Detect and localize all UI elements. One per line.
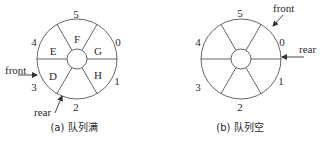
divider bbox=[57, 24, 72, 50]
rear-arrow-icon bbox=[55, 96, 62, 113]
front-arrow-icon bbox=[273, 15, 283, 26]
index-2: 2 bbox=[73, 101, 79, 113]
rear-pointer-label: rear bbox=[299, 43, 316, 55]
index-4: 4 bbox=[195, 36, 201, 48]
cell-4-value: E bbox=[50, 45, 57, 57]
divider bbox=[246, 24, 261, 50]
index-1: 1 bbox=[278, 75, 284, 87]
divider bbox=[246, 68, 261, 94]
index-2: 2 bbox=[237, 101, 243, 113]
panel-b-empty-queue: 5 4 0 3 1 2 front rear (b) 队列空 bbox=[195, 2, 316, 133]
divider bbox=[221, 24, 236, 50]
index-4: 4 bbox=[31, 36, 37, 48]
panel-a-full-queue: F E G D H 5 4 0 3 1 2 front rear (a) 队列满 bbox=[5, 8, 121, 133]
caption-a: (a) 队列满 bbox=[50, 121, 97, 133]
index-0: 0 bbox=[115, 36, 121, 48]
queue-diagram: F E G D H 5 4 0 3 1 2 front rear (a) 队列满… bbox=[0, 0, 320, 146]
divider bbox=[57, 68, 72, 94]
inner-ring bbox=[231, 49, 251, 69]
index-0: 0 bbox=[279, 36, 285, 48]
index-3: 3 bbox=[195, 81, 201, 93]
index-5: 5 bbox=[73, 8, 79, 20]
index-3: 3 bbox=[31, 81, 37, 93]
cell-3-value: D bbox=[49, 70, 57, 82]
divider bbox=[221, 68, 236, 94]
cell-0-value: G bbox=[94, 45, 102, 57]
caption-b: (b) 队列空 bbox=[216, 121, 263, 133]
cell-1-value: H bbox=[94, 69, 102, 81]
inner-ring bbox=[67, 49, 87, 69]
front-pointer-label: front bbox=[273, 2, 294, 14]
rear-pointer-label: rear bbox=[34, 106, 51, 118]
cell-5-value: F bbox=[74, 33, 80, 45]
front-pointer-label: front bbox=[5, 64, 26, 76]
index-5: 5 bbox=[237, 7, 243, 19]
index-1: 1 bbox=[114, 75, 120, 87]
